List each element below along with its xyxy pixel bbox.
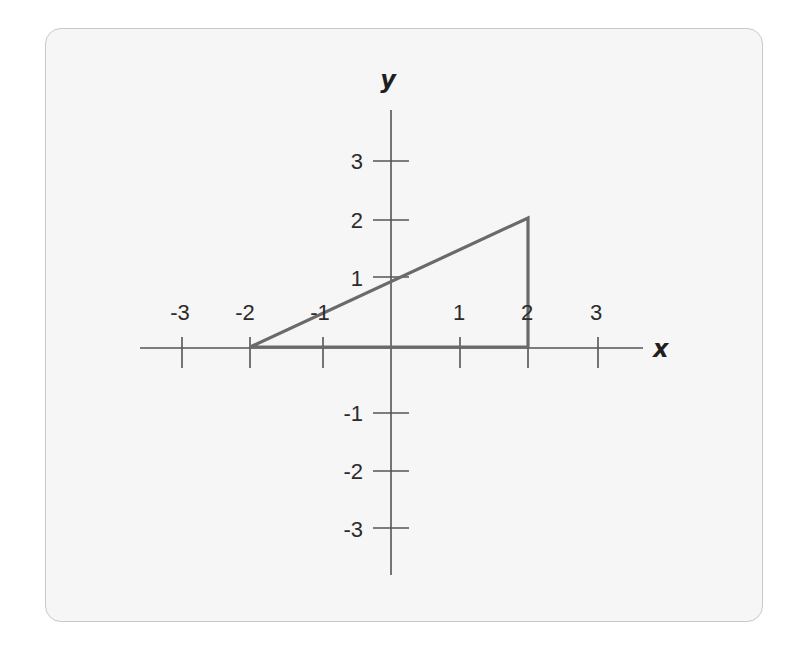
y-tick-label: -3 [343,517,363,542]
x-tick-label: 3 [590,300,602,325]
triangle-shape [250,218,528,347]
y-tick-label: 1 [351,266,363,291]
x-tick-label: 1 [453,300,465,325]
x-tick-label: 2 [521,300,533,325]
x-tick-label: -3 [170,300,190,325]
x-ticks [182,337,598,368]
x-tick-label: -2 [235,300,255,325]
y-tick-label: -2 [343,459,363,484]
y-axis-label: y [380,66,397,94]
y-tick-label: 2 [351,208,363,233]
y-tick-label: 3 [351,149,363,174]
x-axis-label: x [652,335,670,363]
coordinate-plane: -3 -2 -1 1 2 3 3 2 1 -1 -2 -3 x y [0,0,798,657]
y-tick-label: -1 [343,401,363,426]
x-tick-label: -1 [310,300,330,325]
